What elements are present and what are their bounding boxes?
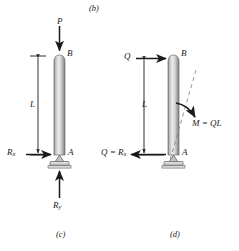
label-reaction-Rx-c-sub: x	[13, 150, 16, 157]
label-reaction-Ry-c: Ry	[53, 201, 61, 211]
base-plate-lower-c	[48, 166, 71, 169]
figure-container: (b)	[0, 0, 239, 251]
caption-c: (c)	[56, 230, 65, 239]
label-dimension-L-c: L	[30, 100, 35, 109]
label-moment-M-QL: M = QL	[192, 119, 222, 128]
label-joint-B-c: B	[67, 49, 73, 58]
caption-d: (d)	[170, 230, 180, 239]
label-dimension-L-d: L	[142, 100, 147, 109]
column-member-c	[54, 55, 65, 155]
label-joint-A-d: A	[182, 148, 188, 157]
label-reaction-Q-Rx-d: Q = Rx	[101, 148, 126, 158]
label-reaction-Rx-c: Rx	[7, 148, 15, 158]
label-reaction-Q-Rx-d-base: Q = R	[101, 147, 124, 157]
column-member-d	[168, 55, 179, 155]
base-plate-lower-d	[162, 166, 185, 169]
base-plate-c	[50, 162, 69, 166]
base-plate-d	[164, 162, 183, 166]
label-reaction-Q-Rx-d-sub: x	[124, 150, 127, 157]
label-joint-A-c: A	[68, 148, 74, 157]
label-load-P: P	[57, 17, 63, 26]
label-reaction-Ry-c-sub: y	[59, 203, 62, 210]
panel-c-graphics	[26, 26, 71, 198]
pin-support-c	[55, 155, 64, 162]
label-load-Q-d: Q	[124, 52, 131, 61]
label-joint-B-d: B	[181, 49, 187, 58]
